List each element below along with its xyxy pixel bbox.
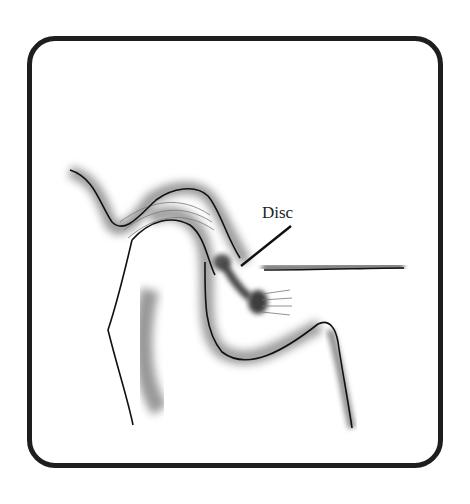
jaw-joint-illustration (0, 0, 470, 504)
coronoid-shading (330, 330, 352, 428)
disc-body (222, 262, 250, 298)
disc-leader-line (241, 226, 291, 266)
ramus-shading (143, 290, 160, 410)
bone-outlines (70, 170, 404, 428)
disc-label: Disc (262, 203, 293, 223)
